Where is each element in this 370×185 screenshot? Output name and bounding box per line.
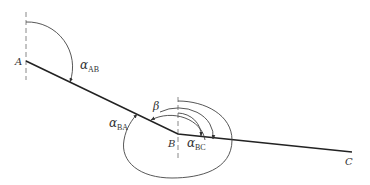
svg-text:BC: BC	[195, 143, 206, 152]
svg-text:BA: BA	[117, 123, 128, 132]
point-a-label: A	[14, 56, 22, 67]
svg-text:α: α	[80, 58, 88, 72]
point-c-label: C	[345, 156, 353, 167]
azimuth-diagram: A B C α AB α BA α BC β	[0, 0, 370, 185]
label-alpha-ab: α AB	[80, 58, 99, 74]
svg-text:AB: AB	[88, 65, 99, 74]
label-beta: β	[152, 100, 159, 113]
point-b-label: B	[167, 138, 175, 149]
label-alpha-bc: α BC	[187, 136, 206, 152]
svg-text:α: α	[109, 116, 117, 130]
label-alpha-ba: α BA	[109, 116, 128, 132]
svg-text:α: α	[187, 136, 195, 150]
